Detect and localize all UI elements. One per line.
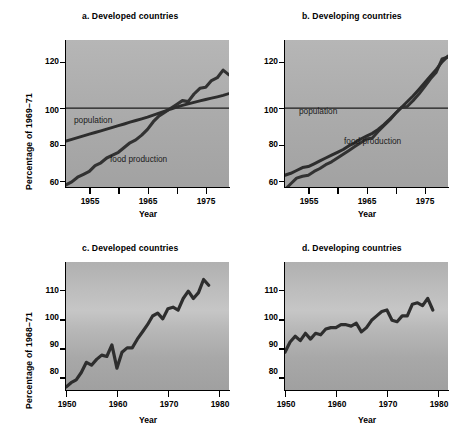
panel-c-ytick-80: 80 xyxy=(33,366,59,376)
panel-c-xtickmark-1970 xyxy=(168,391,169,397)
panel-b-ytickmark-100 xyxy=(279,108,285,109)
panel-a-ytickmark-100 xyxy=(60,108,66,109)
panel-b-xtickmark-1975 xyxy=(425,188,426,194)
panel-c-xtick-1950: 1950 xyxy=(47,399,87,409)
panel-d-xtickmark-1980 xyxy=(438,391,439,397)
panel-c-ytick-90: 90 xyxy=(33,339,59,349)
panel-d-xtick-1960: 1960 xyxy=(317,399,357,409)
panel-b-xtickmark-1970 xyxy=(396,188,397,194)
panel-d-title: d. Developing countries xyxy=(302,243,402,253)
panel-b-ytick-80: 80 xyxy=(252,139,278,149)
panel-a-xtickmark-1970 xyxy=(177,188,178,194)
panel-d-xtickmark-1950 xyxy=(285,391,286,397)
panel-a-plot-background xyxy=(66,40,229,187)
panel-d-ytick-80: 80 xyxy=(252,366,278,376)
panel-d-xtickmark-1970 xyxy=(387,391,388,397)
panel-c-ytickmark-80 xyxy=(60,377,66,378)
panel-c-ylabel: Percentage of 1968–71 xyxy=(24,312,34,409)
panel-b-xtickmark-1955 xyxy=(308,188,309,194)
panel-b-plot: population food production xyxy=(285,40,448,187)
panel-d-xtick-1980: 1980 xyxy=(419,399,459,409)
panel-c-plot xyxy=(66,262,229,390)
panel-a-xtickmark-1965 xyxy=(148,188,149,194)
panel-c-xtickmark-1980 xyxy=(219,391,220,397)
panel-b-xtickmark-1960 xyxy=(337,188,338,194)
panel-c-ytickmark-110 xyxy=(60,290,66,291)
panel-d-ytickmark-80 xyxy=(279,377,285,378)
panel-a-ytick-80: 80 xyxy=(33,139,59,149)
panel-c-x-axis xyxy=(65,390,230,391)
panel-a-xtickmark-1960 xyxy=(118,188,119,194)
panel-b-xtickmark-1965 xyxy=(367,188,368,194)
panel-d-ytick-90: 90 xyxy=(252,339,278,349)
panel-c-xtick-1960: 1960 xyxy=(98,399,138,409)
panel-b-ytickmark-120 xyxy=(279,62,285,63)
panel-a-xlabel: Year xyxy=(126,209,170,219)
panel-b-ytick-100: 100 xyxy=(252,105,278,115)
panel-d-xtick-1970: 1970 xyxy=(368,399,408,409)
panel-a-xtick-1975: 1975 xyxy=(186,196,226,206)
panel-b-xtick-1965: 1965 xyxy=(347,196,387,206)
panel-a-title: a. Developed countries xyxy=(82,11,178,21)
panel-b-xlabel: Year xyxy=(345,209,389,219)
panel-b-label-population: population xyxy=(299,106,338,116)
panel-c-ytick-100: 100 xyxy=(33,312,59,322)
panel-b-xtick-1955: 1955 xyxy=(289,196,329,206)
panel-c-ytickmark-90 xyxy=(60,348,66,349)
figure-four-panel-food-production: a. Developed countries Percentage of 196… xyxy=(0,0,461,441)
panel-b-ytickmark-60 xyxy=(279,181,285,182)
panel-a-plot: population food production xyxy=(66,40,229,187)
panel-a-xtickmark-1955 xyxy=(89,188,90,194)
panel-b-ytickmark-80 xyxy=(279,145,285,146)
panel-c-title: c. Developed countries xyxy=(82,243,178,253)
panel-d-plot xyxy=(285,262,448,390)
panel-c-xtickmark-1950 xyxy=(66,391,67,397)
panel-a-ytickmark-60 xyxy=(60,181,66,182)
panel-a-xtickmark-1975 xyxy=(206,188,207,194)
panel-d-ytick-100: 100 xyxy=(252,312,278,322)
panel-d-ytickmark-100 xyxy=(279,319,285,320)
panel-c-ytick-110: 110 xyxy=(33,285,59,295)
panel-c-xlabel: Year xyxy=(126,415,170,425)
panel-a-ytick-60: 60 xyxy=(33,177,59,187)
panel-c-xtickmark-1960 xyxy=(117,391,118,397)
panel-b-label-food-production: food production xyxy=(344,136,402,146)
panel-d-xlabel: Year xyxy=(345,415,389,425)
panel-a-label-food-production: food production xyxy=(110,154,168,164)
panel-a-ytick-100: 100 xyxy=(33,105,59,115)
panel-c-xtick-1980: 1980 xyxy=(200,399,240,409)
panel-c-y-axis xyxy=(65,262,66,391)
panel-c-ytickmark-100 xyxy=(60,319,66,320)
panel-a-ytick-120: 120 xyxy=(33,56,59,66)
panel-d-ytickmark-90 xyxy=(279,348,285,349)
panel-c-xtick-1970: 1970 xyxy=(149,399,189,409)
panel-d-xtick-1950: 1950 xyxy=(266,399,306,409)
panel-d-xtickmark-1960 xyxy=(336,391,337,397)
panel-a-xtick-1955: 1955 xyxy=(70,196,110,206)
panel-d-ytick-110: 110 xyxy=(252,285,278,295)
panel-b-ytick-120: 120 xyxy=(252,56,278,66)
panel-a-ytickmark-120 xyxy=(60,62,66,63)
panel-b-ytick-60: 60 xyxy=(252,177,278,187)
panel-d-x-axis xyxy=(284,390,449,391)
panel-a-label-population: population xyxy=(74,115,113,125)
panel-a-ytickmark-80 xyxy=(60,145,66,146)
panel-b-xtick-1975: 1975 xyxy=(405,196,445,206)
panel-d-y-axis xyxy=(284,262,285,391)
panel-a-xtick-1965: 1965 xyxy=(128,196,168,206)
panel-d-ytickmark-110 xyxy=(279,290,285,291)
panel-b-title: b. Developing countries xyxy=(302,11,402,21)
